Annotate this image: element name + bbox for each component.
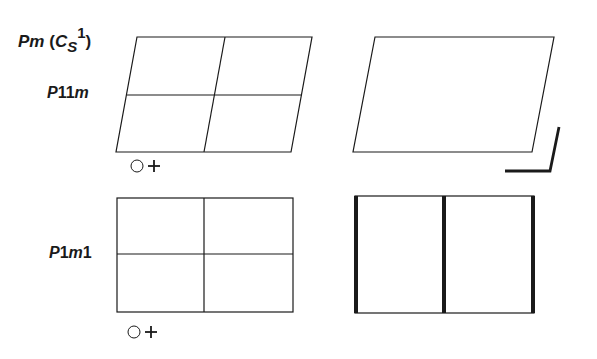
rectangular-cell-mirrors-bold [355,196,534,313]
circle-icon [128,326,140,338]
oblique-cell-with-mirrors [116,37,312,152]
rectangular-cell-with-mirrors [117,198,293,312]
diagram-canvas [0,0,597,359]
oblique-cell-outline-right [353,37,554,152]
rect-cell-outline [117,198,293,312]
origin-marker-bottom [128,326,157,338]
circle-icon [131,160,143,172]
origin-marker-top [131,160,160,172]
oblique-cell-plain [353,37,554,152]
